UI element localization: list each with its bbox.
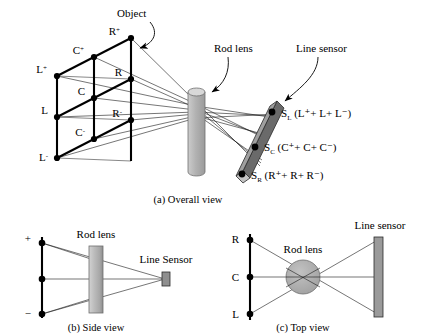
side-rod-lens-label: Rod lens — [77, 228, 116, 240]
object-node-C — [91, 95, 97, 101]
sensor-point-SL — [269, 109, 276, 116]
object-node-L — [54, 114, 60, 120]
top-node-R — [247, 237, 254, 244]
object-node-R-plus — [128, 35, 134, 41]
side-rod-lens — [89, 246, 103, 313]
rod-lens-body — [188, 92, 205, 176]
label-C: C — [78, 85, 85, 97]
label-R: R — [115, 66, 123, 78]
top-rod-lens-label: Rod lens — [284, 243, 323, 255]
side-line-sensor-label: Line Sensor — [140, 253, 193, 265]
side-node-plus — [39, 240, 46, 247]
object-node-L-plus — [54, 73, 60, 79]
side-line-sensor — [162, 272, 170, 286]
sensor-point-SR — [239, 171, 246, 178]
top-node-C — [247, 274, 254, 281]
sensor-point-SC — [252, 144, 259, 151]
caption-side-view: (b) Side view — [68, 322, 125, 334]
side-node-minus — [39, 311, 46, 318]
top-label-L: L — [232, 308, 239, 320]
caption-top-view: (c) Top view — [276, 322, 330, 334]
rod-lens-overall — [188, 88, 205, 176]
line-sensor-label: Line sensor — [296, 42, 347, 54]
top-line-sensor — [374, 237, 383, 317]
object-node-C-minus — [91, 136, 97, 142]
optical-system-figure: R+ C+ L+ R C L R- C- L- Object Rod lens — [0, 0, 430, 336]
side-label-minus: − — [25, 307, 31, 319]
top-line-sensor-label: Line sensor — [354, 219, 405, 231]
top-label-R: R — [232, 233, 240, 245]
object-node-L-minus — [54, 155, 60, 161]
object-label: Object — [117, 7, 146, 19]
label-L: L — [41, 104, 48, 116]
rod-lens-label: Rod lens — [214, 42, 253, 54]
side-label-plus: + — [25, 232, 31, 244]
caption-overall-view: (a) Overall view — [154, 194, 223, 206]
side-node-center — [39, 276, 46, 283]
top-label-C: C — [232, 271, 239, 283]
top-node-L — [247, 311, 254, 318]
rod-lens-top-ellipse — [188, 88, 205, 96]
object-node-R — [128, 76, 134, 82]
object-node-C-plus — [91, 54, 97, 60]
object-node-R-minus — [128, 117, 134, 123]
